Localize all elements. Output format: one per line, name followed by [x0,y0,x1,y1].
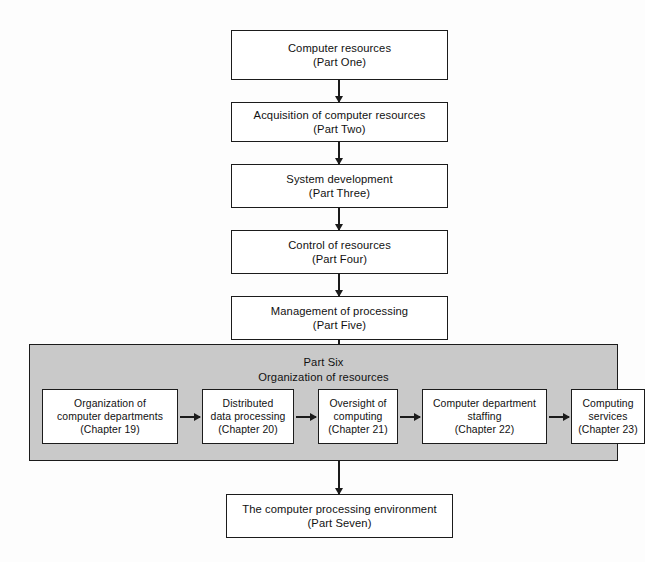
node-line-1: Computer department [433,397,536,410]
arrow-part-one-to-part-two [338,80,340,102]
arrow-chapter-19-to-chapter-20 [180,416,200,418]
flow-node-part-four: Control of resources (Part Four) [231,230,448,274]
flow-node-part-five: Management of processing (Part Five) [231,296,448,340]
flow-node-part-one: Computer resources (Part One) [231,30,448,80]
arrow-part-two-to-part-three [338,142,340,164]
node-subtitle-line: (Part Four) [312,252,367,266]
node-line-2: data processing [211,410,286,423]
node-title-line: Management of processing [271,304,408,318]
node-line-1: Organization of [74,397,146,410]
arrow-chapter-20-to-chapter-21 [296,416,316,418]
arrow-part-six-to-part-seven [338,461,340,494]
flow-node-part-two: Acquisition of computer resources (Part … [231,102,448,142]
arrow-chapter-22-to-chapter-23 [549,416,569,418]
node-line-2: computer departments [57,410,163,423]
node-line-2: computing [334,410,383,423]
node-line-3: (Chapter 21) [328,423,388,436]
part-six-heading-line2: Organization of resources [30,370,617,385]
node-line-3: (Chapter 23) [578,423,638,436]
arrow-chapter-21-to-chapter-22 [400,416,420,418]
part-six-panel: Part Six Organization of resources Organ… [29,344,618,461]
node-line-1: Distributed [223,397,274,410]
flow-node-chapter-19: Organization of computer departments (Ch… [42,389,178,444]
node-line-2: services [589,410,628,423]
node-subtitle-line: (Part Seven) [308,516,372,530]
part-six-heading-line1: Part Six [30,355,617,370]
flow-node-chapter-23: Computing services (Chapter 23) [571,389,645,444]
node-subtitle-line: (Part Five) [313,318,366,332]
flow-node-chapter-21: Oversight of computing (Chapter 21) [318,389,398,444]
node-line-2: staffing [467,410,501,423]
flow-node-part-seven: The computer processing environment (Par… [226,494,453,538]
node-line-3: (Chapter 22) [455,423,515,436]
part-six-heading: Part Six Organization of resources [30,355,617,384]
node-title-line: Control of resources [288,238,391,252]
arrow-part-three-to-part-four [338,208,340,230]
arrow-part-four-to-part-five [338,274,340,296]
flow-node-part-three: System development (Part Three) [231,164,448,208]
node-subtitle-line: (Part One) [313,55,366,69]
node-title-line: Computer resources [288,41,391,55]
node-title-line: The computer processing environment [242,502,436,516]
node-title-line: Acquisition of computer resources [254,108,426,122]
node-line-1: Oversight of [329,397,386,410]
node-line-3: (Chapter 19) [80,423,140,436]
node-subtitle-line: (Part Three) [309,186,370,200]
flow-node-chapter-20: Distributed data processing (Chapter 20) [202,389,294,444]
node-line-1: Computing [582,397,633,410]
node-subtitle-line: (Part Two) [313,122,365,136]
flowchart-canvas: Computer resources (Part One) Acquisitio… [0,0,645,562]
flow-node-chapter-22: Computer department staffing (Chapter 22… [422,389,547,444]
node-line-3: (Chapter 20) [218,423,278,436]
node-title-line: System development [286,172,392,186]
